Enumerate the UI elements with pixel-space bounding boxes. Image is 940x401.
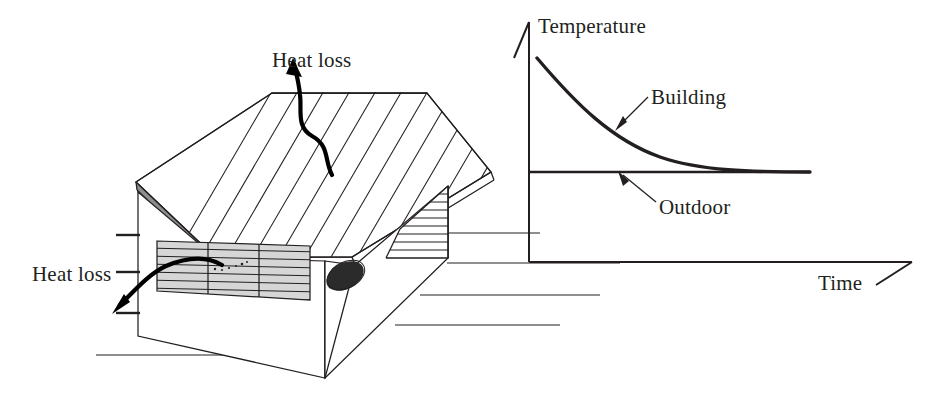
x-axis-label: Time bbox=[818, 271, 862, 295]
building-leader bbox=[615, 97, 648, 131]
building-curve bbox=[537, 58, 810, 172]
y-axis-label: Temperature bbox=[538, 14, 646, 38]
roof-heat-loss-label: Heat loss bbox=[272, 48, 351, 72]
temperature-chart: Temperature Time Building Outdoor bbox=[514, 14, 912, 295]
outdoor-leader bbox=[618, 171, 656, 202]
building-leader-arrowhead bbox=[615, 116, 627, 131]
y-axis-arrowhead bbox=[514, 22, 529, 58]
heat-loss-figure: Temperature Time Building Outdoor Heat l… bbox=[0, 0, 940, 401]
window bbox=[150, 241, 318, 300]
wall-heat-loss-label: Heat loss bbox=[32, 262, 111, 286]
building-series-label: Building bbox=[651, 85, 726, 109]
outdoor-series-label: Outdoor bbox=[659, 195, 730, 219]
figure-canvas: Temperature Time Building Outdoor Heat l… bbox=[0, 0, 940, 401]
x-axis-arrowhead bbox=[876, 262, 912, 285]
